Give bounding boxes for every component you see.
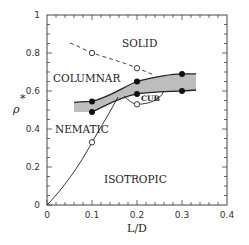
x-tick-label: 0.2 xyxy=(130,210,144,220)
filled-marker xyxy=(89,109,95,115)
filled-marker xyxy=(134,79,140,85)
filled-marker xyxy=(179,88,185,94)
open-marker xyxy=(89,140,94,145)
y-tick-label: 0.4 xyxy=(26,124,41,134)
y-tick-label: 0.8 xyxy=(26,48,41,58)
filled-marker xyxy=(134,91,140,97)
x-tick-label: 0.1 xyxy=(85,210,99,220)
y-tick-label: 0.6 xyxy=(26,86,41,96)
nematic-isotropic-boundary xyxy=(47,97,118,205)
x-axis-title: L/D xyxy=(127,222,147,235)
region-label-solid: SOLID xyxy=(122,37,157,49)
region-label-isotropic: ISOTROPIC xyxy=(104,173,167,185)
region-label-columnar: COLUMNAR xyxy=(53,72,121,84)
x-tick-label: 0.3 xyxy=(175,210,189,220)
x-tick-label: 0 xyxy=(44,210,50,220)
filled-marker xyxy=(89,98,95,104)
region-label-nematic: NEMATIC xyxy=(55,123,109,135)
filled-marker xyxy=(179,71,185,77)
phase-diagram-chart: 0 0.1 0.2 0.3 0.4 0 0.2 0.4 0.6 0.8 1 L/… xyxy=(0,0,249,245)
y-axis-title-star: * xyxy=(20,92,26,105)
x-tick-label: 0.4 xyxy=(220,210,235,220)
y-tick-label: 0.2 xyxy=(26,162,40,172)
open-marker xyxy=(134,66,139,71)
open-marker xyxy=(89,50,94,55)
y-axis-title: ρ xyxy=(12,103,20,116)
open-marker xyxy=(134,102,139,107)
region-label-cub: CUB xyxy=(141,94,160,103)
y-tick-label: 1 xyxy=(34,10,40,20)
y-tick-label: 0 xyxy=(34,200,40,210)
